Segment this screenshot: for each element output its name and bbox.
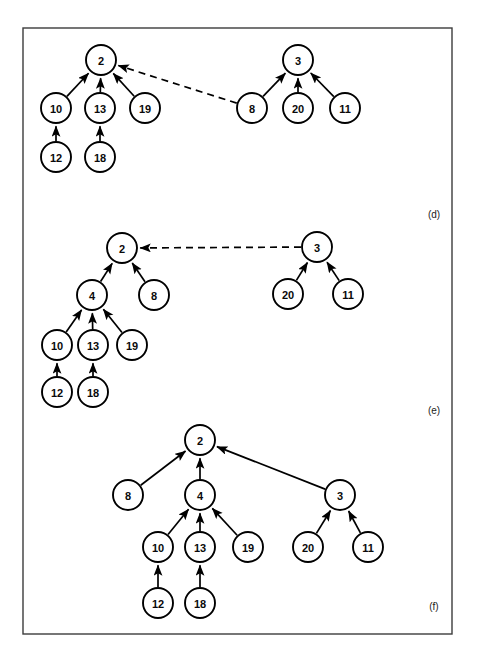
panel-label-d: (d) <box>428 209 440 220</box>
node-d13: 13 <box>85 93 115 123</box>
node-label-f19: 19 <box>242 542 254 554</box>
node-e10: 10 <box>42 330 72 360</box>
node-label-d3: 3 <box>295 55 301 67</box>
node-d20: 20 <box>283 93 313 123</box>
node-f11: 11 <box>353 532 383 562</box>
edge-e20-to-e3 <box>296 262 307 280</box>
edge-d8-to-d3 <box>263 73 285 96</box>
node-label-d18: 18 <box>94 152 106 164</box>
node-f19: 19 <box>233 532 263 562</box>
node-label-f3: 3 <box>337 490 343 502</box>
node-e8: 8 <box>139 280 169 310</box>
edge-e10-to-e4 <box>66 310 81 332</box>
panel-labels-layer: (d)(e)(f) <box>428 209 440 612</box>
panel-label-e: (e) <box>428 405 440 416</box>
edge-f11-to-f3 <box>349 511 361 533</box>
node-label-d13: 13 <box>94 103 106 115</box>
node-label-e20: 20 <box>282 289 294 301</box>
node-e13: 13 <box>78 330 108 360</box>
node-label-d8: 8 <box>249 103 255 115</box>
edge-e8-to-e2 <box>132 263 145 282</box>
nodes-layer: 2101319121838201124810131912183201128431… <box>41 45 383 618</box>
node-d18: 18 <box>85 142 115 172</box>
edge-e3-to-e2 <box>140 247 301 248</box>
node-label-e13: 13 <box>87 340 99 352</box>
node-f3: 3 <box>325 480 355 510</box>
node-d8: 8 <box>237 93 267 123</box>
edge-d11-to-d3 <box>311 73 334 97</box>
node-label-d2: 2 <box>98 55 104 67</box>
node-d19: 19 <box>130 93 160 123</box>
node-e12: 12 <box>42 377 72 407</box>
node-d3: 3 <box>283 45 313 75</box>
node-label-f4: 4 <box>197 490 204 502</box>
edge-e4-to-e2 <box>101 263 113 281</box>
node-e11: 11 <box>333 279 363 309</box>
node-f18: 18 <box>185 588 215 618</box>
node-e19: 19 <box>117 330 147 360</box>
node-d2: 2 <box>86 45 116 75</box>
node-label-f12: 12 <box>152 598 164 610</box>
edge-d10-to-d2 <box>67 73 89 96</box>
node-d12: 12 <box>41 142 71 172</box>
node-label-f11: 11 <box>362 542 374 554</box>
edge-e19-to-e4 <box>103 309 122 332</box>
edge-f19-to-f4 <box>212 508 237 535</box>
node-d11: 11 <box>330 93 360 123</box>
node-label-e10: 10 <box>51 340 63 352</box>
node-label-f13: 13 <box>194 542 206 554</box>
node-f20: 20 <box>293 532 323 562</box>
node-label-d19: 19 <box>139 103 151 115</box>
node-f4: 4 <box>185 480 215 510</box>
node-e2: 2 <box>107 233 137 263</box>
node-label-d20: 20 <box>292 103 304 115</box>
edge-f8-to-f2 <box>141 451 186 485</box>
node-label-f10: 10 <box>152 542 164 554</box>
edge-f10-to-f4 <box>168 509 189 534</box>
node-label-f2: 2 <box>197 435 203 447</box>
tree-diagram-svg: 2101319121838201124810131912183201128431… <box>0 0 482 660</box>
node-label-e19: 19 <box>126 340 138 352</box>
node-label-d12: 12 <box>50 152 62 164</box>
node-f13: 13 <box>185 532 215 562</box>
node-label-e2: 2 <box>119 243 125 255</box>
edge-f20-to-f3 <box>316 511 330 534</box>
node-label-e11: 11 <box>342 289 354 301</box>
node-f10: 10 <box>143 532 173 562</box>
node-e4: 4 <box>77 280 107 310</box>
node-f2: 2 <box>185 425 215 455</box>
edge-f3-to-f2 <box>217 447 325 490</box>
node-label-d11: 11 <box>339 103 351 115</box>
node-label-f18: 18 <box>194 598 206 610</box>
node-label-e18: 18 <box>87 387 99 399</box>
node-e20: 20 <box>273 279 303 309</box>
edge-e11-to-e3 <box>327 262 339 280</box>
node-label-e4: 4 <box>89 290 96 302</box>
node-e3: 3 <box>302 232 332 262</box>
figure-container: 2101319121838201124810131912183201128431… <box>0 0 482 660</box>
node-label-e8: 8 <box>151 290 157 302</box>
node-f8: 8 <box>113 480 143 510</box>
node-f12: 12 <box>143 588 173 618</box>
node-label-f8: 8 <box>125 490 131 502</box>
node-e18: 18 <box>78 377 108 407</box>
panel-label-f: (f) <box>429 601 438 612</box>
edge-d19-to-d2 <box>113 73 134 96</box>
node-label-d10: 10 <box>50 103 62 115</box>
node-label-f20: 20 <box>302 542 314 554</box>
node-label-e3: 3 <box>314 242 320 254</box>
node-label-e12: 12 <box>51 387 63 399</box>
node-d10: 10 <box>41 93 71 123</box>
